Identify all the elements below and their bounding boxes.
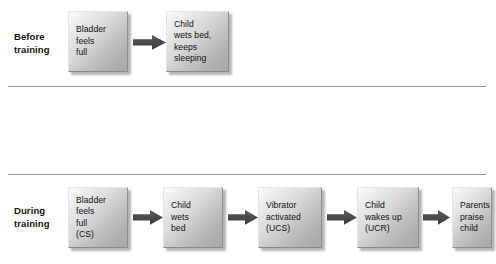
stage-label-line: training (14, 44, 66, 57)
box-text-line: Bladder (76, 24, 106, 35)
row-after-training: After training Bladder feels full (CS) (0, 175, 496, 264)
stage-label-line: Before (14, 31, 66, 44)
box-text-line: wets bed, (174, 30, 211, 41)
box-text-line: feels (76, 36, 106, 47)
box-text: Bladder feels full (69, 24, 109, 58)
stage-label-before: Before training (14, 31, 66, 56)
box-text-line: keeps (174, 42, 211, 53)
box-child-wets-bed-keeps-sleeping: Child wets bed, keeps sleeping (166, 11, 229, 72)
row-during-training: During training Bladder feels full (CS) (0, 87, 496, 174)
box-text-line: sleeping (174, 53, 211, 64)
box-text-line: full (76, 47, 106, 58)
box-text-line: Child (174, 19, 211, 30)
conditioning-diagram: Before training Bladder feels full (0, 0, 496, 264)
box-bladder-feels-full: Bladder feels full (68, 11, 128, 72)
row-before-training: Before training Bladder feels full (0, 0, 496, 86)
arrow-before-1 (133, 35, 166, 50)
box-text: Child wets bed, keeps sleeping (167, 19, 214, 65)
